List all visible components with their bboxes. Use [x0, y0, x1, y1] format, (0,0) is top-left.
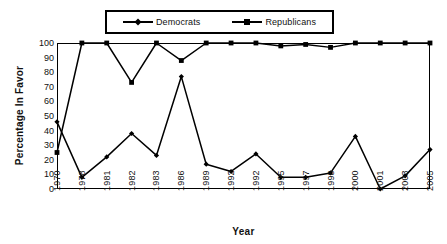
x-tick-label: 1992 [226, 170, 236, 191]
data-point [179, 58, 184, 63]
chart-series-layer [57, 43, 430, 189]
x-tick-label: 1986 [176, 170, 186, 191]
data-point [154, 41, 159, 46]
plot-area [57, 43, 430, 189]
x-tick-label: 1981 [102, 170, 112, 191]
y-tick-label: 90 [44, 53, 54, 63]
data-point [104, 41, 109, 46]
legend-entry-republicans[interactable]: Republicans [232, 17, 316, 27]
x-tick-label: 1998 [326, 170, 336, 191]
legend-label-democrats: Democrats [156, 17, 200, 27]
square-marker-icon [244, 19, 250, 25]
y-tick-label: 20 [44, 155, 54, 165]
x-tick-label: 2000 [350, 170, 360, 191]
data-point [204, 162, 209, 167]
y-tick-label: 100 [39, 38, 54, 48]
diamond-marker-icon [134, 18, 141, 25]
x-tick-label: 2005 [425, 170, 435, 191]
chart-root: Democrats Republicans 010203040506070809… [0, 0, 447, 244]
legend-line-democrats [123, 21, 153, 23]
data-point [278, 44, 283, 49]
x-tick-label: 1978 [77, 170, 87, 191]
x-tick-label: 1989 [201, 170, 211, 191]
legend-label-republicans: Republicans [265, 17, 316, 27]
x-tick-label: 1982 [127, 170, 137, 191]
data-point [129, 80, 134, 85]
data-point [254, 41, 259, 46]
x-axis: 1970197819811982198319861989199219921995… [57, 191, 430, 225]
y-axis: 0102030405060708090100 [26, 43, 54, 189]
data-point [428, 41, 433, 46]
x-tick-label: 1995 [276, 170, 286, 191]
x-tick-label: 1983 [151, 170, 161, 191]
y-tick-label: 70 [44, 82, 54, 92]
y-tick-label: 60 [44, 96, 54, 106]
data-point [378, 41, 383, 46]
data-point [303, 42, 308, 47]
y-tick-label: 30 [44, 140, 54, 150]
chart-legend: Democrats Republicans [105, 10, 334, 34]
x-tick-label: 1992 [251, 170, 261, 191]
legend-line-republicans [232, 21, 262, 23]
data-point [79, 41, 84, 46]
x-tick-label: 1970 [52, 170, 62, 191]
y-tick-label: 80 [44, 67, 54, 77]
x-tick-label: 2001 [375, 170, 385, 191]
data-point [55, 150, 60, 155]
data-point [54, 119, 59, 124]
data-point [229, 41, 234, 46]
data-point [328, 45, 333, 50]
x-axis-title: Year [57, 226, 430, 237]
y-tick-label: 50 [44, 111, 54, 121]
data-point [403, 41, 408, 46]
data-point [179, 74, 184, 79]
x-tick-label: 1997 [301, 170, 311, 191]
x-tick-label: 2003 [400, 170, 410, 191]
series-republicans [55, 41, 433, 155]
data-point [353, 41, 358, 46]
y-tick-label: 40 [44, 126, 54, 136]
legend-entry-democrats[interactable]: Democrats [123, 17, 200, 27]
y-axis-title: Percentage In Favor [14, 41, 25, 191]
data-point [204, 41, 209, 46]
